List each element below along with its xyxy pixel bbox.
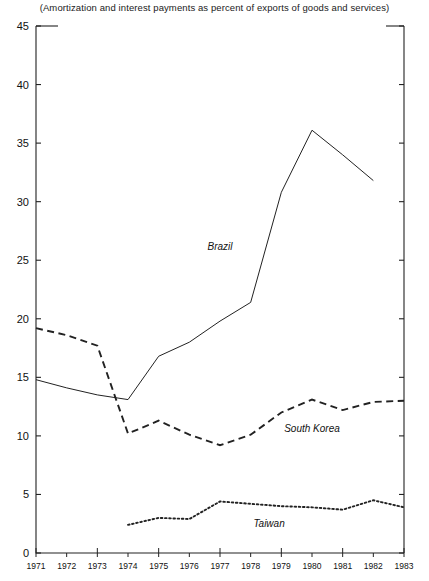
series-label-south-korea: South Korea	[284, 423, 340, 434]
x-tick-label: 1983	[395, 561, 414, 571]
x-tick-label: 1982	[364, 561, 383, 571]
y-tick-label: 20	[17, 313, 29, 325]
x-tick-label: 1977	[211, 561, 230, 571]
y-tick-label: 35	[17, 137, 29, 149]
x-tick-label: 1974	[119, 561, 138, 571]
x-tick-label: 1971	[27, 561, 46, 571]
x-tick-label: 1981	[333, 561, 352, 571]
x-tick-label: 1976	[180, 561, 199, 571]
series-label-brazil: Brazil	[207, 241, 233, 252]
y-tick-label: 10	[17, 430, 29, 442]
x-tick-label: 1975	[149, 561, 168, 571]
x-tick-label: 1978	[241, 561, 260, 571]
y-axis: 051015202530354045	[17, 20, 404, 559]
x-axis: 1971197219731974197519761977197819791980…	[27, 548, 414, 571]
chart-container: (Amortization and interest payments as p…	[0, 0, 429, 581]
series-label-taiwan: Taiwan	[253, 518, 285, 529]
chart-plot: 051015202530354045 197119721973197419751…	[0, 0, 429, 581]
x-tick-label: 1972	[57, 561, 76, 571]
series-lines	[36, 130, 404, 525]
series-line-brazil	[36, 130, 373, 399]
x-tick-label: 1973	[88, 561, 107, 571]
y-tick-label: 25	[17, 254, 29, 266]
axis-lines	[36, 26, 404, 553]
y-tick-label: 40	[17, 79, 29, 91]
series-line-south-korea	[36, 328, 404, 445]
x-tick-label: 1980	[303, 561, 322, 571]
plot-frame	[36, 26, 404, 553]
series-labels: BrazilSouth KoreaTaiwan	[207, 241, 340, 530]
y-tick-label: 45	[17, 20, 29, 32]
y-tick-label: 30	[17, 196, 29, 208]
x-tick-label: 1979	[272, 561, 291, 571]
y-tick-label: 0	[23, 547, 29, 559]
y-tick-label: 5	[23, 488, 29, 500]
y-tick-label: 15	[17, 371, 29, 383]
